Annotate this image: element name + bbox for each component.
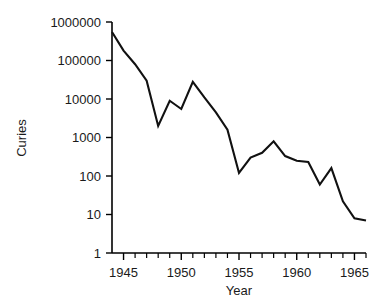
data-series-line xyxy=(112,32,366,220)
x-axis-tick-label: 1965 xyxy=(340,265,369,280)
y-axis-tick-label: 10 xyxy=(87,207,101,222)
y-axis-title: Curies xyxy=(14,119,29,157)
y-axis-tick-labels: 1101001000100001000001000000 xyxy=(50,15,101,261)
x-axis-tick-label: 1945 xyxy=(109,265,138,280)
x-axis-tick-label: 1950 xyxy=(167,265,196,280)
y-axis-tick-label: 10000 xyxy=(65,92,101,107)
x-axis-tick-label: 1955 xyxy=(225,265,254,280)
y-axis-tick-label: 100 xyxy=(79,169,101,184)
x-axis-title: Year xyxy=(226,283,253,298)
y-axis-tick-label: 1000 xyxy=(72,130,101,145)
y-axis-tick-label: 1 xyxy=(94,246,101,261)
x-axis-tick-labels: 19451950195519601965 xyxy=(109,265,369,280)
y-axis-tick-label: 1000000 xyxy=(50,15,101,30)
chart-container: 1101001000100001000001000000 19451950195… xyxy=(0,0,384,304)
curies-vs-year-line-chart: 1101001000100001000001000000 19451950195… xyxy=(0,0,384,304)
y-axis-tick-label: 100000 xyxy=(58,53,101,68)
x-axis-tick-label: 1960 xyxy=(282,265,311,280)
x-axis-tick-marks xyxy=(124,253,366,260)
y-axis-tick-marks xyxy=(106,22,112,253)
